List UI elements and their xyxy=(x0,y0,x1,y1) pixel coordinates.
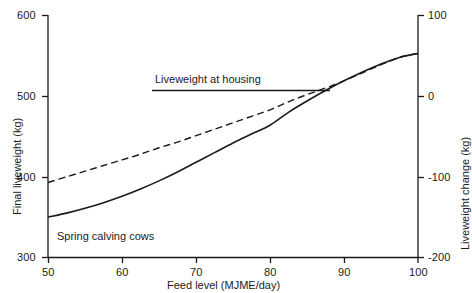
y2tick-label-minus100: -100 xyxy=(428,172,450,183)
xtick-label-90: 90 xyxy=(338,267,350,278)
chart-figure: 600 500 400 300 50 60 70 80 90 100 100 0… xyxy=(0,0,472,293)
xtick-label-60: 60 xyxy=(116,267,128,278)
annotation-spring-calving-cows: Spring calving cows xyxy=(57,231,154,242)
xtick-label-100: 100 xyxy=(409,267,428,278)
xtick-label-50: 50 xyxy=(42,267,54,278)
y2tick-label-0: 0 xyxy=(428,91,434,102)
annotation-liveweight-at-housing: Liveweight at housing xyxy=(155,74,261,85)
chart-plot-area xyxy=(0,0,472,293)
left-axis-ticks xyxy=(42,16,48,258)
ytick-label-600: 600 xyxy=(17,10,36,21)
xtick-label-80: 80 xyxy=(264,267,276,278)
ytick-label-300: 300 xyxy=(17,252,36,263)
right-axis-title: Liveweight change (kg) xyxy=(460,137,471,250)
left-axis-title: Final liveweight (kg) xyxy=(12,118,23,215)
y2tick-label-100: 100 xyxy=(428,10,447,21)
xtick-label-70: 70 xyxy=(190,267,202,278)
bottom-axis-title: Feed level (MJME/day) xyxy=(167,280,280,291)
y2tick-label-minus200: -200 xyxy=(428,252,450,263)
ytick-label-500: 500 xyxy=(17,91,36,102)
right-axis-ticks xyxy=(418,16,424,258)
